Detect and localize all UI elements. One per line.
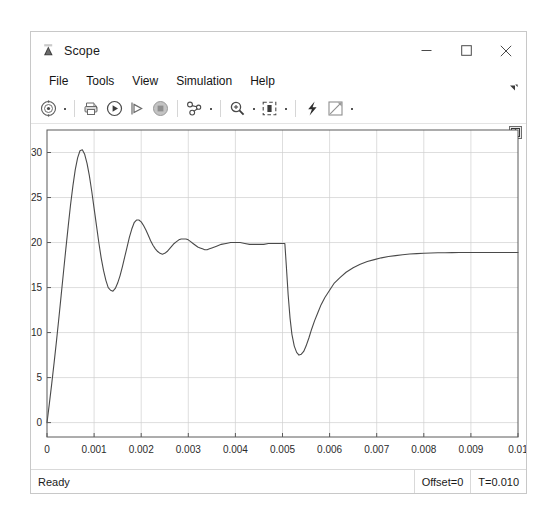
menu-view[interactable]: View xyxy=(123,71,167,92)
scope-plot[interactable]: 05101520253000.0010.0020.0030.0040.0050.… xyxy=(31,124,526,473)
run-button[interactable] xyxy=(104,98,125,119)
toolbar-separator xyxy=(177,100,178,117)
y-tick-label: 10 xyxy=(31,327,42,338)
status-ready-label: Ready xyxy=(31,470,414,493)
step-forward-button[interactable] xyxy=(127,98,148,119)
autoscale-button[interactable] xyxy=(259,98,280,119)
window-title: Scope xyxy=(64,44,100,58)
menu-help[interactable]: Help xyxy=(241,71,284,92)
menu-simulation[interactable]: Simulation xyxy=(167,71,241,92)
y-tick-label: 30 xyxy=(31,147,42,158)
y-tick-label: 0 xyxy=(36,417,42,428)
measurements-button[interactable] xyxy=(302,98,323,119)
style-button[interactable] xyxy=(325,98,346,119)
toolbar xyxy=(31,94,526,124)
scope-icon xyxy=(41,43,56,58)
x-tick-label: 0.006 xyxy=(317,444,342,455)
print-button[interactable] xyxy=(81,98,102,119)
style-dropdown-caret[interactable] xyxy=(347,99,356,119)
window-controls xyxy=(406,32,526,69)
menu-bar: File Tools View Simulation Help xyxy=(31,69,526,94)
configuration-properties-button[interactable] xyxy=(38,98,59,119)
x-tick-label: 0 xyxy=(44,444,50,455)
title-bar: Scope xyxy=(31,32,526,69)
x-tick-label: 0.009 xyxy=(458,444,483,455)
y-tick-label: 25 xyxy=(31,192,42,203)
y-tick-label: 20 xyxy=(31,237,42,248)
plot-region: 05101520253000.0010.0020.0030.0040.0050.… xyxy=(31,124,526,469)
x-tick-label: 0.003 xyxy=(176,444,201,455)
zoom-button[interactable] xyxy=(227,98,248,119)
y-tick-label: 5 xyxy=(36,372,42,383)
x-tick-label: 0.002 xyxy=(129,444,154,455)
x-tick-label: 0.004 xyxy=(223,444,248,455)
title-bar-left: Scope xyxy=(31,43,100,58)
status-offset-label: Offset=0 xyxy=(414,470,471,493)
menu-overflow-icon[interactable] xyxy=(510,78,518,86)
x-tick-label: 0.005 xyxy=(270,444,295,455)
x-tick-label: 0.008 xyxy=(411,444,436,455)
x-tick-label: 0.007 xyxy=(364,444,389,455)
zoom-dropdown-caret[interactable] xyxy=(249,99,258,119)
x-tick-label: 0.001 xyxy=(82,444,107,455)
minimize-button[interactable] xyxy=(406,35,446,67)
toolbar-separator xyxy=(220,100,221,117)
scope-window: Scope File Tools View xyxy=(30,31,527,494)
status-time-label: T=0.010 xyxy=(470,470,526,493)
signal-selection-dropdown-caret[interactable] xyxy=(206,99,215,119)
configuration-dropdown-caret[interactable] xyxy=(60,99,69,119)
toolbar-separator xyxy=(74,100,75,117)
menu-tools[interactable]: Tools xyxy=(77,71,123,92)
autoscale-dropdown-caret[interactable] xyxy=(281,99,290,119)
maximize-button[interactable] xyxy=(446,35,486,67)
menu-file[interactable]: File xyxy=(40,71,77,92)
signal-selection-button[interactable] xyxy=(184,98,205,119)
close-button[interactable] xyxy=(486,35,526,67)
toolbar-separator xyxy=(295,100,296,117)
x-tick-label: 0.01 xyxy=(508,444,526,455)
y-tick-label: 15 xyxy=(31,282,42,293)
stop-button[interactable] xyxy=(150,98,171,119)
